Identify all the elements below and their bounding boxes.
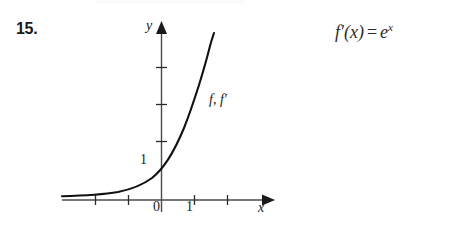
formula-expression: f′(x)=ex bbox=[335, 21, 393, 43]
formula-exponent: x bbox=[388, 21, 393, 33]
origin-label: 0 bbox=[153, 199, 160, 215]
y-axis-arrowhead bbox=[156, 21, 167, 34]
figure-page: 15. f′(x)=ex y x 0 bbox=[0, 0, 457, 227]
graph-svg bbox=[0, 0, 300, 227]
exponential-graph: y x 0 1 1 f, f′ bbox=[0, 0, 300, 227]
x-tick-label-one: 1 bbox=[186, 199, 193, 215]
exponential-curve bbox=[62, 33, 214, 196]
y-tick-label-one: 1 bbox=[140, 152, 147, 168]
curve-label: f, f′ bbox=[209, 92, 227, 108]
y-axis-label: y bbox=[146, 18, 152, 34]
formula-base: e bbox=[380, 22, 388, 42]
x-axis-label: x bbox=[258, 200, 264, 216]
formula-argument: (x) bbox=[344, 22, 364, 42]
formula-equals: = bbox=[364, 22, 380, 42]
